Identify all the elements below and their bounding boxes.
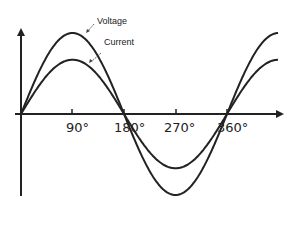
current-pointer-arrow-icon [89,59,93,63]
x-tick-label-270: 270° [164,120,195,135]
voltage-label: Voltage [97,16,127,26]
x-tick-label-90: 90° [66,120,89,135]
voltage-pointer-line [88,24,94,31]
current-label: Current [104,37,135,47]
sine-wave-diagram: 90° 180° 270° 360° Voltage Current [0,0,296,228]
